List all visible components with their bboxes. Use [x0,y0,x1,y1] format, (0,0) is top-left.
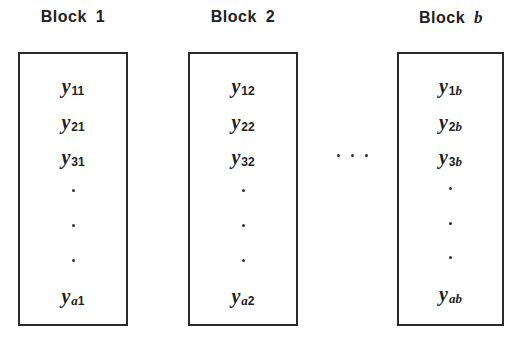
block-b-title: Blockb [391,8,511,28]
block-2-box: y12 y22 y32 ya2 [188,52,298,326]
ellipsis-dot [351,154,354,157]
cell-ya2: ya2 [190,286,296,311]
block-2-title: Block2 [183,8,303,26]
vertical-ellipsis-dot [242,224,245,227]
cell-y22: y22 [190,112,296,137]
horizontal-ellipsis [335,154,371,158]
block-b-box: y1b y2b y3b yab [397,52,504,326]
cell-y1b: y1b [399,76,502,101]
vertical-ellipsis-dot [449,187,452,190]
ellipsis-dot [337,154,340,157]
cell-y32: y32 [190,147,296,172]
cell-y11: y11 [20,76,126,101]
cell-y12: y12 [190,76,296,101]
cell-y2b: y2b [399,112,502,137]
vertical-ellipsis-dot [449,256,452,259]
vertical-ellipsis-dot [242,189,245,192]
vertical-ellipsis-dot [72,189,75,192]
block-title-word: Block [41,8,87,25]
block-title-word: Block [419,9,465,26]
cell-ya1: ya1 [20,286,126,311]
block-1-title: Block1 [13,8,133,26]
cell-y3b: y3b [399,147,502,172]
block-index: 2 [266,8,275,25]
ellipsis-dot [365,154,368,157]
block-index: b [474,8,483,27]
vertical-ellipsis-dot [72,224,75,227]
cell-yab: yab [399,284,502,309]
block-1-box: y11 y21 y31 ya1 [18,52,128,326]
vertical-ellipsis-dot [449,222,452,225]
block-title-word: Block [211,8,257,25]
vertical-ellipsis-dot [242,259,245,262]
cell-y31: y31 [20,147,126,172]
block-index: 1 [96,8,105,25]
vertical-ellipsis-dot [72,259,75,262]
cell-y21: y21 [20,112,126,137]
